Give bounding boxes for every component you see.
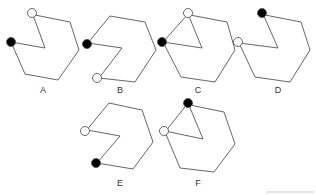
figure-b-filled-dot-icon <box>83 40 92 49</box>
figure-b-label: B <box>110 85 130 95</box>
figure-a-label: A <box>33 85 53 95</box>
figure-c-open-dot-icon <box>184 9 193 18</box>
figure-d-filled-dot-icon <box>258 9 267 18</box>
figure-c-label: C <box>188 85 208 95</box>
figure-f-label: F <box>188 178 208 188</box>
figure-a-filled-dot-icon <box>7 38 16 47</box>
figure-c-filled-dot-icon <box>158 38 167 47</box>
figure-b-open-dot-icon <box>93 74 102 83</box>
bottom-divider <box>266 191 314 193</box>
figure-f-open-dot-icon <box>160 127 169 136</box>
figure-a-open-dot-icon <box>28 9 37 18</box>
figure-f-filled-dot-icon <box>184 99 193 108</box>
figure-d-open-dot-icon <box>234 38 243 47</box>
figure-e-open-dot-icon <box>81 127 90 136</box>
figure-d-label: D <box>268 85 288 95</box>
figure-c-outline <box>163 14 235 82</box>
figure-e-filled-dot-icon <box>92 159 101 168</box>
figure-canvas <box>0 0 316 195</box>
figure-f-outline <box>165 103 235 172</box>
figure-a-outline <box>11 15 79 80</box>
figure-d-outline <box>239 14 310 82</box>
figure-e-label: E <box>110 178 130 188</box>
figure-b-outline <box>87 16 156 82</box>
